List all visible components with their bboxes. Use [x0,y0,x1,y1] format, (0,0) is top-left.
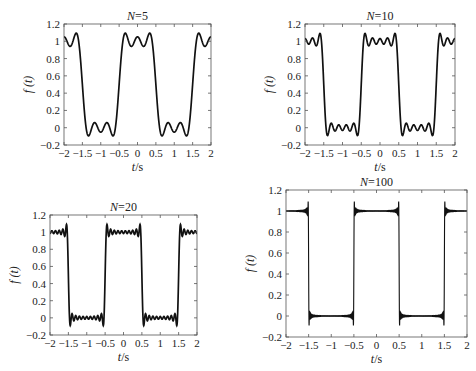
x-tick-label: −0.5 [351,147,371,159]
y-tick-label: 0.8 [268,226,282,238]
x-tick-label: −1.5 [299,339,319,351]
y-tick-label: 0.4 [46,87,60,99]
y-axis-label: f (t) [243,255,257,273]
y-tick-label: 1 [277,205,283,217]
x-tick-label: −0.5 [109,147,129,159]
figure: −2−1.5−1−0.500.511.52−0.200.20.40.60.811… [0,0,476,371]
subplot-n10: −2−1.5−1−0.500.511.52−0.200.20.40.60.811… [262,9,458,174]
x-tick-label: 1.5 [186,147,200,159]
subplot-n100: −2−1.5−1−0.500.511.52−0.200.20.40.60.811… [243,175,470,366]
x-tick-label: −1 [337,147,349,159]
x-tick-label: −1 [95,147,107,159]
y-tick-label: −0.2 [281,139,301,151]
series-line [50,224,197,325]
series-line [64,33,211,136]
y-tick-label: 0.4 [268,268,282,280]
y-tick-label: 1.2 [32,209,46,221]
y-tick-label: 0 [277,310,283,322]
subplot-n5: −2−1.5−1−0.500.511.52−0.200.20.40.60.811… [21,9,214,174]
x-tick-label: −1 [81,337,93,349]
x-axis-label: t/s [118,350,130,364]
y-tick-label: 0.6 [268,247,282,259]
x-axis-label: t/s [132,160,144,174]
x-tick-label: 0.5 [149,147,163,159]
y-tick-label: 1 [55,35,61,47]
x-tick-label: 0.5 [135,337,149,349]
y-tick-label: 0 [55,122,61,134]
x-tick-label: 1.5 [438,339,452,351]
y-tick-label: 0.2 [32,295,46,307]
x-tick-label: 1.5 [172,337,186,349]
y-tick-label: 0 [296,122,302,134]
y-axis-label: f (t) [21,76,35,94]
x-axis-label: t/s [374,160,386,174]
x-tick-label: 1.5 [429,147,443,159]
x-tick-label: 0.5 [392,339,406,351]
x-tick-label: 2 [464,339,470,351]
y-tick-label: 0.4 [32,278,46,290]
x-tick-label: 0 [121,337,127,349]
y-tick-label: −0.2 [40,139,60,151]
x-tick-label: 2 [194,337,200,349]
y-tick-label: 1.2 [46,18,60,30]
y-tick-label: 0.6 [46,70,60,82]
y-tick-label: 0.8 [46,53,60,65]
x-tick-label: 1 [419,339,425,351]
x-tick-label: −1.5 [58,337,78,349]
y-tick-label: 0.2 [46,104,60,116]
x-tick-label: 0 [374,339,380,351]
y-tick-label: 0.8 [32,243,46,255]
x-tick-label: −1 [325,339,337,351]
plot-title: N=10 [366,9,394,23]
subplot-n20: −2−1.5−1−0.500.511.52−0.200.20.40.60.811… [7,200,200,364]
y-tick-label: 0.2 [287,104,301,116]
y-tick-label: 0 [41,312,47,324]
y-axis-label: f (t) [7,266,21,284]
y-axis-label: f (t) [262,76,276,94]
y-tick-label: 0.8 [287,53,301,65]
series-line [305,33,455,135]
x-tick-label: 0 [135,147,141,159]
y-tick-label: 1.2 [268,184,282,196]
x-tick-label: −0.5 [95,337,115,349]
y-tick-label: 1 [296,35,302,47]
x-tick-label: 2 [208,147,214,159]
x-tick-label: −0.5 [344,339,364,351]
y-tick-label: 0.4 [287,87,301,99]
y-tick-label: −0.2 [262,331,282,343]
plot-title: N=5 [126,9,148,23]
y-tick-label: 0.2 [268,289,282,301]
y-tick-label: 0.6 [32,260,46,272]
y-tick-label: 1.2 [287,18,301,30]
x-axis-label: t/s [371,352,383,366]
y-tick-label: 0.6 [287,70,301,82]
plot-title: N=20 [109,200,137,214]
x-tick-label: 0.5 [392,147,406,159]
x-tick-label: −1.5 [314,147,334,159]
x-tick-label: 1 [415,147,421,159]
plot-title: N=100 [359,175,393,189]
x-tick-label: 2 [452,147,458,159]
axes-frame [305,24,455,145]
x-tick-label: 1 [158,337,164,349]
y-tick-label: 1 [41,226,47,238]
x-tick-label: 0 [377,147,383,159]
x-tick-label: 1 [172,147,178,159]
x-tick-label: −1.5 [72,147,92,159]
y-tick-label: −0.2 [26,329,46,341]
series-line [286,202,467,326]
